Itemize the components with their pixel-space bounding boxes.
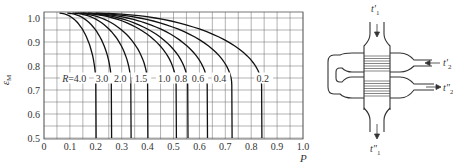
label-t2-in: t'2 (443, 57, 452, 71)
curve-label: 3.0 (96, 73, 109, 84)
svg-text:εM: εM (0, 74, 13, 85)
curve-label: 1.0 (158, 73, 171, 84)
return-loop-inner (336, 68, 364, 82)
x-tick-label: 0.8 (245, 141, 258, 152)
effectiveness-chart: R=4.03.02.01.51.00.80.60.40.2 00.10.20.3… (0, 12, 309, 164)
curve-label: 1.5 (135, 73, 148, 84)
label-t2-out: t"2 (443, 82, 453, 96)
y-tick-label: 0.6 (28, 109, 41, 120)
arrow-down-icon (375, 124, 380, 139)
label-t1-out: t"1 (370, 143, 381, 157)
x-tick-label: 0.7 (219, 141, 232, 152)
label-t1-in: t'1 (371, 3, 380, 17)
curve-label: R=4.0 (61, 73, 86, 84)
tube-bank-lower (364, 81, 390, 96)
return-loop-left (328, 53, 364, 98)
arrow-right-icon (426, 85, 441, 90)
curve-label: 0.2 (256, 73, 269, 84)
x-tick-label: 0.9 (271, 141, 284, 152)
curve-label: 0.6 (192, 73, 205, 84)
arrow-left-icon (425, 61, 440, 66)
figure: R=4.03.02.01.51.00.80.60.40.2 00.10.20.3… (0, 0, 453, 168)
y-tick-label: 1.0 (28, 13, 41, 24)
y-tick-label: 0.5 (28, 133, 41, 144)
arrow-down-icon (375, 24, 380, 37)
x-tick-label: 0.3 (115, 141, 128, 152)
heat-exchanger-diagram: t'1 t'2 t"2 t"1 (328, 3, 453, 157)
y-tick-label: 0.9 (28, 37, 41, 48)
x-tick-label: 1.0 (297, 141, 310, 152)
y-axis-ticks: 1.00.90.80.70.60.5 (28, 13, 41, 144)
x-tick-label: 0.5 (167, 141, 180, 152)
x-tick-label: 0.6 (193, 141, 206, 152)
x-tick-label: 0.2 (90, 141, 103, 152)
curve-label: 0.4 (214, 73, 227, 84)
tube-bank-upper (364, 56, 390, 71)
curve-label: 2.0 (114, 73, 127, 84)
y-tick-label: 0.8 (28, 61, 41, 72)
curve-label: 0.8 (175, 73, 188, 84)
x-tick-label: 0.4 (141, 141, 154, 152)
x-axis-ticks: 00.10.20.30.40.50.60.70.80.91.0 (42, 141, 310, 152)
y-axis-label: εM (0, 74, 13, 85)
x-axis-label: P (299, 152, 307, 164)
x-tick-label: 0.1 (64, 141, 77, 152)
x-tick-label: 0 (42, 141, 47, 152)
duct-lower-right (390, 77, 434, 98)
y-tick-label: 0.7 (28, 85, 41, 96)
